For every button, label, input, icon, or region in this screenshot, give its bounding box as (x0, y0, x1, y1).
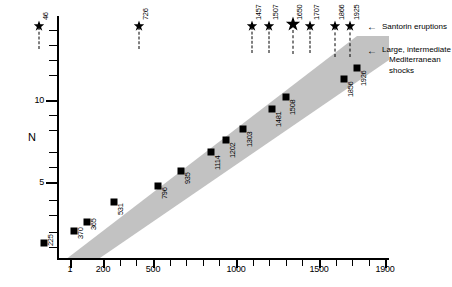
data-point-square (240, 126, 247, 133)
legend-label-shocks-line1: Large, intermediate (382, 45, 451, 56)
data-point-star (264, 18, 275, 29)
y-tick (49, 115, 57, 116)
x-tick (286, 260, 287, 266)
legend-arrow-shocks: ← (367, 46, 377, 56)
data-point-square (84, 219, 91, 226)
y-axis-title: N (28, 131, 36, 143)
point-label: 935 (184, 172, 192, 184)
y-tick (49, 30, 57, 31)
y-tick (49, 60, 57, 61)
x-tick-label-1000: 1000 (216, 264, 256, 274)
y-tick-label-10: 10 (18, 95, 44, 105)
point-label: 796 (161, 187, 169, 199)
point-label: 370 (77, 227, 85, 239)
point-label: 1508 (289, 100, 297, 116)
data-point-square (111, 199, 118, 206)
point-label: 531 (117, 203, 125, 215)
x-tick (186, 260, 187, 266)
y-axis-line (57, 16, 59, 260)
y-tick (49, 75, 57, 76)
y-tick (49, 215, 57, 216)
data-point-star (345, 18, 356, 29)
y-tick (49, 152, 57, 153)
data-point-square (283, 94, 290, 101)
y-tick-label-5: 5 (18, 177, 44, 187)
x-axis-line (57, 258, 389, 260)
chart-figure: N 10 5 1 (0, 0, 452, 287)
point-label: 1303 (246, 132, 254, 148)
x-tick-label-1500: 1500 (299, 264, 339, 274)
data-point-star (34, 18, 45, 29)
point-label: 1856 (347, 82, 355, 98)
dropline (350, 27, 351, 57)
data-point-square (208, 149, 215, 156)
y-tick-major-10 (46, 100, 57, 102)
dropline (335, 27, 336, 57)
plot-area: N 10 5 1 (0, 0, 452, 287)
y-tick (49, 167, 57, 168)
data-point-star (330, 18, 341, 29)
x-tick-label-500: 500 (133, 264, 173, 274)
data-point-square (71, 228, 78, 235)
data-point-square (354, 65, 361, 72)
data-point-square (41, 240, 48, 247)
x-tick (203, 260, 204, 266)
x-tick (352, 260, 353, 266)
data-point-square (223, 137, 230, 144)
y-tick (49, 247, 57, 248)
dropline (293, 30, 294, 54)
x-tick-label-200: 200 (83, 264, 123, 274)
legend-label-shocks-line2: Mediterranean shocks (389, 55, 452, 76)
legend-label-santorin: Santorin eruptions (382, 22, 447, 33)
data-point-star (286, 17, 301, 32)
point-label: 1202 (229, 143, 237, 159)
x-tick (269, 260, 270, 266)
y-tick (49, 232, 57, 233)
point-label: 1114 (214, 156, 222, 170)
data-point-square (269, 106, 276, 113)
data-point-star (134, 18, 145, 29)
data-point-star (305, 18, 316, 29)
point-label: 365 (90, 218, 98, 230)
x-tick-label-1900: 1900 (365, 264, 405, 274)
y-tick-major-5 (46, 182, 57, 184)
y-tick (49, 200, 57, 201)
data-point-square (341, 76, 348, 83)
data-point-star (247, 18, 258, 29)
y-tick (49, 130, 57, 131)
point-label: 225 (47, 234, 55, 246)
point-label: 1926 (360, 71, 368, 87)
data-point-square (178, 168, 185, 175)
legend-arrow-santorin: ← (367, 22, 377, 32)
point-label: 1481 (275, 112, 283, 128)
y-tick (49, 45, 57, 46)
data-point-square (155, 183, 162, 190)
